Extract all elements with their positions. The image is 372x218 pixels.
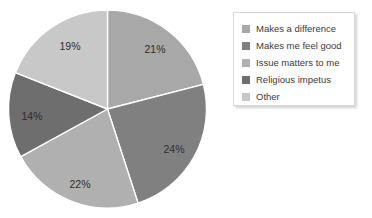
legend-item-label: Makes me feel good (256, 41, 342, 51)
legend-item[interactable]: Other (242, 89, 354, 105)
pie-slice-data-label: 14% (21, 110, 42, 122)
pie-svg: 21%24%22%14%19% (0, 0, 220, 218)
pie-slice-data-label: 19% (59, 40, 80, 52)
legend-swatch-icon (242, 93, 250, 101)
pie-slice-data-label: 21% (144, 43, 165, 55)
legend-item-label: Other (256, 92, 280, 102)
chart-legend: Makes a difference Makes me feel good Is… (233, 12, 355, 106)
legend-swatch-icon (242, 42, 250, 50)
pie-chart-figure: 21%24%22%14%19% Makes a difference Makes… (0, 0, 372, 218)
legend-swatch-icon (242, 59, 250, 67)
pie-slice-data-label: 22% (69, 178, 90, 190)
legend-item[interactable]: Makes a difference (242, 21, 354, 37)
legend-item[interactable]: Makes me feel good (242, 38, 354, 54)
legend-swatch-icon (242, 76, 250, 84)
legend-item-label: Issue matters to me (256, 58, 339, 68)
pie-slice-data-label: 24% (163, 143, 184, 155)
pie-plot-area: 21%24%22%14%19% (0, 0, 220, 218)
legend-item-label: Religious impetus (256, 75, 331, 85)
legend-item-label: Makes a difference (256, 24, 336, 34)
legend-swatch-icon (242, 25, 250, 33)
legend-item[interactable]: Issue matters to me (242, 55, 354, 71)
legend-item[interactable]: Religious impetus (242, 72, 354, 88)
